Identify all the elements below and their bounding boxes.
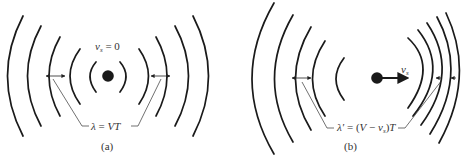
panel-a-stationary-source: vs = 0 λ = VT (a) bbox=[8, 16, 209, 153]
wavelength-label-a: λ = VT bbox=[90, 120, 121, 132]
panel-b-moving-source: vs λ′ = (V − vs)T (b) bbox=[252, 3, 459, 154]
wavefronts-left-b bbox=[252, 3, 344, 154]
source-velocity-label-a: vs = 0 bbox=[95, 40, 120, 54]
moving-source-dot bbox=[371, 72, 383, 84]
leader-line-right-a bbox=[131, 79, 161, 126]
caption-b: (b) bbox=[344, 140, 357, 153]
wavelength-label-b: λ′ = (V − vs)T bbox=[336, 121, 396, 135]
caption-a: (a) bbox=[101, 140, 114, 153]
doppler-figure: vs = 0 λ = VT (a) vs bbox=[0, 0, 466, 158]
velocity-label-b: vs bbox=[401, 63, 409, 77]
stationary-source-dot bbox=[102, 70, 114, 82]
